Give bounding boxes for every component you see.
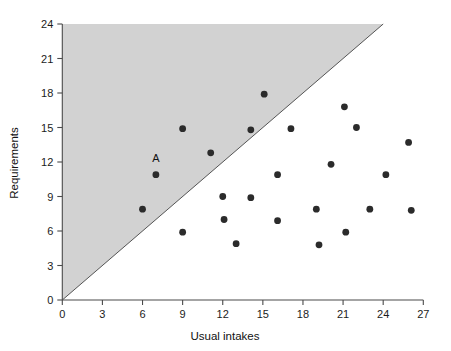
- data-point: [341, 103, 348, 110]
- x-tick-label: 27: [417, 308, 429, 320]
- data-point: [313, 206, 320, 213]
- data-point: [261, 91, 268, 98]
- x-tick-label: 18: [297, 308, 309, 320]
- y-tick-label: 0: [47, 294, 53, 306]
- data-point: [179, 229, 186, 236]
- y-tick-label: 15: [41, 122, 53, 134]
- y-tick-label: 21: [41, 53, 53, 65]
- x-tick-label: 6: [139, 308, 145, 320]
- data-point: [219, 193, 226, 200]
- x-tick-label: 24: [377, 308, 389, 320]
- data-point: [316, 241, 323, 248]
- point-annotation-a: A: [152, 152, 160, 164]
- x-axis-ticks: 0369121518212427: [59, 300, 429, 320]
- y-tick-label: 18: [41, 87, 53, 99]
- data-point: [221, 216, 228, 223]
- x-tick-label: 15: [257, 308, 269, 320]
- data-point: [274, 171, 281, 178]
- point-annotations: A: [152, 152, 160, 164]
- data-point: [152, 171, 159, 178]
- x-tick-label: 21: [337, 308, 349, 320]
- x-tick-label: 12: [217, 308, 229, 320]
- data-point: [342, 229, 349, 236]
- y-tick-label: 6: [47, 225, 53, 237]
- x-tick-label: 3: [99, 308, 105, 320]
- chart-canvas: 0369121518212427 03691215182124 A Usual …: [0, 0, 451, 351]
- data-point: [207, 149, 214, 156]
- data-point: [274, 217, 281, 224]
- data-point: [233, 240, 240, 247]
- data-point: [408, 207, 415, 214]
- data-point: [139, 206, 146, 213]
- scatter-chart: 0369121518212427 03691215182124 A Usual …: [0, 0, 451, 351]
- x-tick-label: 9: [180, 308, 186, 320]
- y-tick-label: 12: [41, 156, 53, 168]
- data-point: [247, 194, 254, 201]
- data-point: [288, 125, 295, 132]
- data-point: [328, 161, 335, 168]
- data-point: [366, 206, 373, 213]
- data-point: [382, 171, 389, 178]
- y-tick-label: 3: [47, 260, 53, 272]
- x-axis-title: Usual intakes: [190, 330, 259, 342]
- y-axis-title: Requirements: [8, 127, 20, 199]
- data-point: [179, 125, 186, 132]
- y-tick-label: 24: [41, 18, 53, 30]
- x-tick-label: 0: [59, 308, 65, 320]
- data-point: [247, 126, 254, 133]
- y-axis-ticks: 03691215182124: [41, 18, 62, 306]
- data-point: [405, 139, 412, 146]
- data-point: [353, 124, 360, 131]
- y-tick-label: 9: [47, 191, 53, 203]
